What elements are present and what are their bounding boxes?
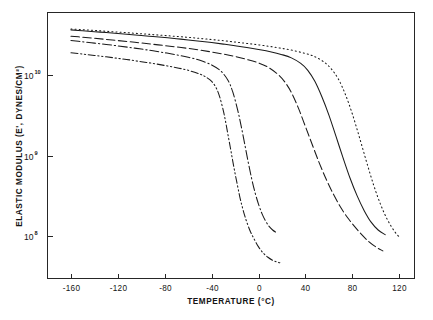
curve-5-dotted <box>71 29 400 238</box>
y-tick-base: 10 <box>24 152 34 162</box>
plot-frame <box>48 13 415 279</box>
x-axis-tick-labels: -160-120-80-4004080120 <box>63 284 407 293</box>
y-tick-label: 109 <box>24 150 38 162</box>
y-tick-exponent: 10 <box>35 69 41 75</box>
axis-frame-path <box>48 13 415 279</box>
data-curves <box>71 29 400 263</box>
x-axis-ticks <box>72 274 400 279</box>
y-tick-exponent: 9 <box>35 150 38 156</box>
y-axis-ticks <box>48 76 53 237</box>
y-axis-tick-labels: 1010109108 <box>24 69 41 242</box>
curve-2-dash-dot <box>71 40 276 232</box>
curve-1-dash-dot-dot <box>71 53 282 263</box>
x-tick-label: -160 <box>63 284 81 293</box>
y-tick-base: 10 <box>24 71 34 81</box>
x-tick-label: -80 <box>159 284 172 293</box>
x-tick-label: -120 <box>110 284 128 293</box>
x-tick-label: 40 <box>301 284 311 293</box>
y-tick-label: 108 <box>24 230 38 242</box>
x-tick-label: -40 <box>206 284 219 293</box>
x-tick-label: 120 <box>392 284 407 293</box>
y-axis-title: ELASTIC MODULUS (E', DYNES/CM²) <box>15 65 24 226</box>
elastic-modulus-chart: -160-120-80-4004080120 1010109108 TEMPER… <box>0 0 433 320</box>
curve-4-solid <box>71 30 385 235</box>
x-tick-label: 80 <box>348 284 358 293</box>
y-tick-label: 1010 <box>24 69 41 81</box>
y-tick-exponent: 8 <box>35 230 38 236</box>
curve-3-dashed <box>71 36 383 251</box>
y-tick-base: 10 <box>24 232 34 242</box>
figure-container: -160-120-80-4004080120 1010109108 TEMPER… <box>0 0 433 320</box>
x-axis-title: TEMPERATURE (°C) <box>187 297 274 306</box>
x-tick-label: 0 <box>257 284 262 293</box>
